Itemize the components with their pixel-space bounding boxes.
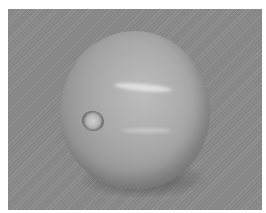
photo xyxy=(8,9,262,210)
specular-highlight xyxy=(114,81,172,93)
stem-scar xyxy=(80,108,106,133)
tomato xyxy=(60,31,210,189)
specular-highlight-lower xyxy=(122,128,172,133)
